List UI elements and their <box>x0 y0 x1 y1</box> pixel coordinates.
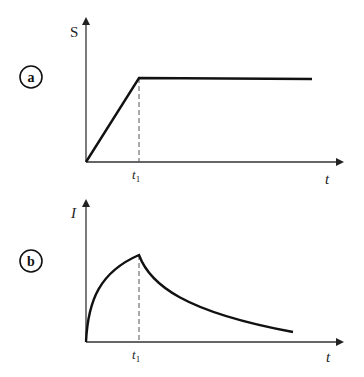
panel-a-y-axis-label: S <box>70 24 78 40</box>
diagram-canvas: a S t t1 b I t t1 <box>0 0 364 377</box>
panel-b-x-axis-label: t <box>326 349 331 365</box>
panel-b: b I t t1 <box>20 201 342 365</box>
panel-b-badge-label: b <box>27 254 35 269</box>
panel-a-t1-label: t1 <box>132 167 140 184</box>
panel-a-badge-label: a <box>28 70 35 85</box>
panel-b-t1-label: t1 <box>132 347 140 364</box>
panel-a-curve <box>86 78 312 162</box>
panel-b-curve <box>86 255 293 342</box>
panel-a-badge: a <box>20 66 42 88</box>
panel-b-y-axis-label: I <box>70 205 77 221</box>
panel-b-badge: b <box>20 250 42 272</box>
panel-a-x-axis-label: t <box>325 171 330 187</box>
panel-a: a S t t1 <box>20 19 342 187</box>
